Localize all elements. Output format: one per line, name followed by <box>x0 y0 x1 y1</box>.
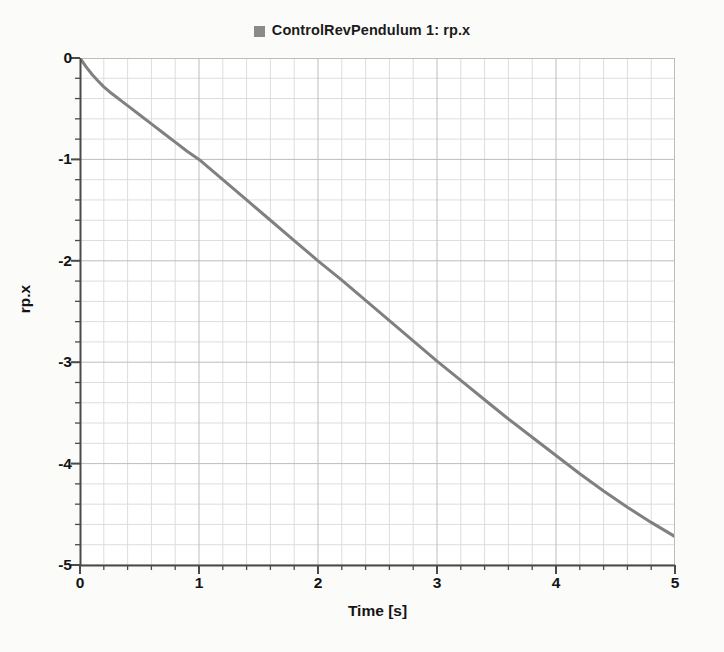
x-tick-label: 0 <box>76 575 85 591</box>
chart-legend: ControlRevPendulum 1: rp.x <box>0 22 724 38</box>
x-axis-tick-marks <box>80 565 675 574</box>
y-tick-label: -5 <box>58 557 72 573</box>
legend-swatch-icon <box>254 26 265 37</box>
x-tick-label: 5 <box>671 575 680 591</box>
series-lines <box>80 58 675 537</box>
legend-entry-label: ControlRevPendulum 1: rp.x <box>272 22 470 38</box>
y-tick-label: -1 <box>58 152 72 168</box>
series-line-0 <box>80 58 675 537</box>
plot-area <box>80 58 675 565</box>
y-axis-tick-marks <box>71 58 80 565</box>
x-axis-title: Time [s] <box>80 602 675 620</box>
chart-figure: ControlRevPendulum 1: rp.x 0-1-2-3-4-5 0… <box>0 0 724 652</box>
y-tick-label: -4 <box>58 456 72 472</box>
x-tick-label: 2 <box>314 575 323 591</box>
y-axis-tick-labels: 0-1-2-3-4-5 <box>30 58 72 565</box>
x-tick-label: 1 <box>195 575 204 591</box>
y-tick-label: -2 <box>58 253 72 269</box>
plot-canvas <box>80 58 675 565</box>
x-axis-tick-labels: 012345 <box>80 575 675 597</box>
y-axis-title: rp.x <box>16 254 34 344</box>
y-tick-label: 0 <box>63 50 72 66</box>
x-tick-label: 3 <box>433 575 442 591</box>
y-tick-label: -3 <box>58 354 72 370</box>
x-tick-label: 4 <box>552 575 561 591</box>
